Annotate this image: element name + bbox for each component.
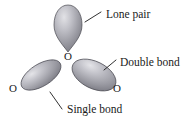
ozone-orbital-diagram: O O O Lone pair Double bond Single bond <box>0 0 192 122</box>
callout-label-lone-pair: Lone pair <box>106 8 151 21</box>
atom-label-right-oxygen: O <box>113 82 121 94</box>
single-bond-lobe <box>16 54 66 97</box>
atom-label-left-oxygen: O <box>9 82 17 94</box>
callout-label-single-bond: Single bond <box>67 103 123 116</box>
atom-label-center-oxygen: O <box>64 50 72 62</box>
callout-label-double-bond: Double bond <box>120 56 180 68</box>
single-bond-leader-line <box>50 92 62 109</box>
lone-pair-lobe <box>54 5 82 52</box>
lone-pair-leader-line <box>85 12 101 22</box>
double-bond-leader-line <box>104 60 116 70</box>
diagram-canvas: O O O Lone pair Double bond Single bond <box>0 0 192 122</box>
